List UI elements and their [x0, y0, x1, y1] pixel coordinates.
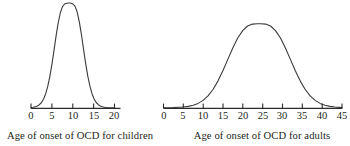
children-tick-label-10: 10: [68, 110, 79, 121]
panel-adults: 0 5 10 15 20 25 30 35 40 45: [160, 0, 350, 146]
children-normal-curve-plot: [0, 0, 165, 124]
children-tick-label-5: 5: [49, 110, 54, 121]
children-axis-caption: Age of onset of OCD for children: [0, 130, 160, 142]
adults-tick-label-45: 45: [337, 110, 348, 121]
children-curve-path: [31, 3, 115, 108]
two-panel-distribution-figure: 0 5 10 15 20 Age of onset of OCD for chi…: [0, 0, 350, 146]
adults-tick-label-40: 40: [317, 110, 328, 121]
adults-axis-caption: Age of onset of OCD for adults: [178, 130, 346, 142]
adults-tick-label-30: 30: [277, 110, 288, 121]
children-tick-label-15: 15: [89, 110, 100, 121]
children-tick-label-20: 20: [109, 110, 120, 121]
adults-tick-label-5: 5: [180, 110, 185, 121]
adults-tick-label-25: 25: [258, 110, 269, 121]
adults-curve-path: [164, 24, 343, 108]
adults-tick-label-15: 15: [218, 110, 229, 121]
panel-children: 0 5 10 15 20: [0, 0, 165, 146]
adults-tick-label-35: 35: [297, 110, 308, 121]
adults-tick-label-10: 10: [198, 110, 209, 121]
adults-normal-curve-plot: [160, 0, 350, 124]
adults-tick-label-0: 0: [161, 110, 166, 121]
children-tick-label-0: 0: [28, 110, 33, 121]
adults-tick-label-20: 20: [238, 110, 249, 121]
